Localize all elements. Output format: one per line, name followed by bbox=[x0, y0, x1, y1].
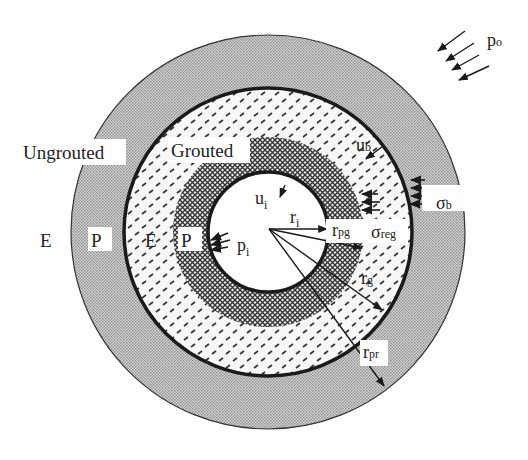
p-o-label: po bbox=[487, 30, 502, 50]
diagram-canvas: Ungrouted Grouted E P E P po ub σb ui ri… bbox=[0, 0, 528, 460]
plastic-outer-label: P bbox=[91, 230, 102, 251]
tunnel-opening bbox=[208, 172, 328, 292]
far-field-stress-arrows bbox=[438, 31, 489, 80]
tunnel-diagram: Ungrouted Grouted E P E P po ub σb ui ri… bbox=[0, 0, 528, 460]
elastic-inner-label: E bbox=[145, 230, 157, 251]
grouted-label: Grouted bbox=[171, 140, 234, 161]
ungrouted-label: Ungrouted bbox=[23, 142, 105, 163]
plastic-inner-label: P bbox=[181, 230, 192, 251]
elastic-outer-label: E bbox=[40, 230, 52, 251]
